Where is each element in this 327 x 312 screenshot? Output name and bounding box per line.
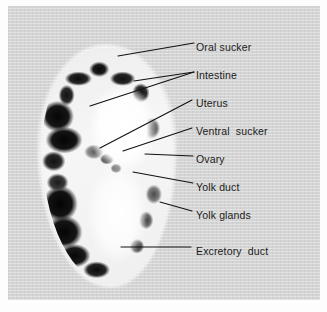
leader-line-yolk-duct: [133, 172, 193, 183]
leader-line-yolk-glands: [160, 202, 192, 211]
leader-line-intestine-2: [90, 72, 194, 106]
label-uterus: Uterus: [196, 97, 228, 109]
leader-line-uterus: [100, 100, 192, 148]
label-excretory-duct: Excretory duct: [196, 245, 268, 257]
label-yolk-duct: Yolk duct: [196, 181, 240, 193]
leader-line-oral-sucker: [118, 43, 194, 56]
leader-line-intestine: [134, 72, 194, 81]
label-oral-sucker: Oral sucker: [196, 41, 251, 53]
leader-line-ventral-sucker: [123, 128, 192, 151]
label-intestine: Intestine: [196, 69, 237, 81]
leader-lines-group: [0, 0, 327, 312]
leader-line-ovary: [145, 154, 193, 156]
figure-container: Oral suckerIntestineUterusVentral sucker…: [0, 0, 327, 312]
label-ventral-sucker: Ventral sucker: [196, 125, 268, 137]
label-ovary: Ovary: [196, 153, 225, 165]
label-yolk-glands: Yolk glands: [196, 209, 251, 221]
